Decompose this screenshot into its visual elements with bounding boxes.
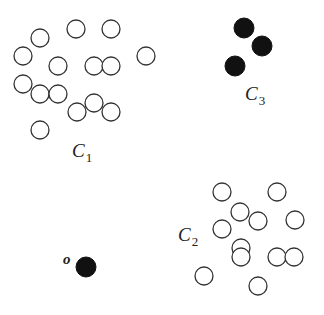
data-point bbox=[85, 94, 103, 112]
data-point bbox=[213, 220, 231, 238]
cluster-label-subscript: 1 bbox=[86, 150, 93, 165]
data-point bbox=[137, 47, 155, 65]
cluster-label: C1 bbox=[72, 140, 92, 165]
data-point bbox=[234, 18, 254, 38]
data-point bbox=[232, 248, 250, 266]
data-point bbox=[31, 85, 49, 103]
data-point bbox=[31, 29, 49, 47]
data-point bbox=[14, 75, 32, 93]
data-point bbox=[286, 211, 304, 229]
cluster-c1: C1 bbox=[14, 20, 155, 165]
data-point bbox=[268, 183, 286, 201]
data-point bbox=[213, 183, 231, 201]
data-point bbox=[67, 20, 85, 38]
data-point bbox=[268, 248, 286, 266]
data-point bbox=[49, 57, 67, 75]
cluster-label-subscript: 2 bbox=[192, 234, 199, 249]
data-point bbox=[249, 277, 267, 295]
data-point bbox=[102, 103, 120, 121]
data-point bbox=[231, 203, 249, 221]
cluster-label: C2 bbox=[178, 224, 198, 249]
cluster-diagram: C1C2C3o bbox=[0, 0, 324, 315]
data-point bbox=[85, 57, 103, 75]
data-point bbox=[249, 212, 267, 230]
data-point bbox=[285, 248, 303, 266]
data-point bbox=[225, 56, 245, 76]
data-point bbox=[252, 36, 272, 56]
data-point bbox=[102, 57, 120, 75]
cluster-c2: C2 bbox=[178, 183, 304, 295]
data-point bbox=[31, 121, 49, 139]
data-point bbox=[195, 267, 213, 285]
data-point bbox=[68, 103, 86, 121]
data-point bbox=[14, 47, 32, 65]
outlier-point bbox=[76, 257, 96, 277]
cluster-label-subscript: 3 bbox=[259, 93, 266, 108]
cluster-c3: C3 bbox=[225, 18, 272, 108]
cluster-label: C3 bbox=[245, 83, 265, 108]
data-point bbox=[49, 85, 67, 103]
cluster-plot: C1C2C3o bbox=[0, 0, 324, 315]
outlier-label: o bbox=[63, 251, 71, 267]
data-point bbox=[102, 20, 120, 38]
outlier: o bbox=[63, 251, 96, 277]
